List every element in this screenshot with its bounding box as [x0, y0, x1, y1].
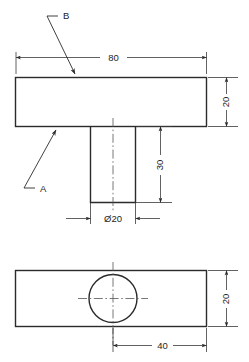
- technical-drawing-canvas: 80 20 30: [0, 0, 249, 362]
- dim-label-block-thickness: 20: [220, 97, 231, 108]
- dim-label-hole-offset: 40: [157, 340, 168, 351]
- leader-b-arrow-line: [47, 16, 75, 74]
- dim-label-stem-height: 30: [154, 160, 165, 171]
- dimension-overall-width: 80: [16, 52, 207, 74]
- leader-a-arrow-line: [24, 130, 56, 188]
- dimension-plan-height: 20: [208, 271, 238, 327]
- leader-b: B: [47, 10, 75, 74]
- plan-view: 20 40: [16, 262, 239, 352]
- dim-label-overall-width: 80: [108, 52, 119, 63]
- dimension-block-thickness: 20: [208, 78, 238, 127]
- leader-a: A: [24, 130, 56, 194]
- dimension-hole-diameter: Ø20: [66, 203, 160, 224]
- technical-drawing-svg: 80 20 30: [0, 0, 249, 362]
- dimension-stem-height: 30: [136, 127, 172, 203]
- label-a: A: [40, 183, 47, 194]
- dim-label-plan-height: 20: [220, 294, 231, 305]
- front-elevation-view: 80 20 30: [16, 10, 239, 224]
- top-block-outline: [16, 78, 207, 127]
- label-b: B: [63, 10, 69, 21]
- dim-label-hole-diameter: Ø20: [104, 213, 122, 224]
- dimension-hole-offset: 40: [113, 328, 207, 352]
